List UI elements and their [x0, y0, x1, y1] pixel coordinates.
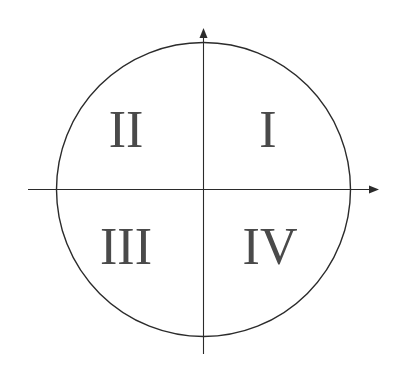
- quadrant-label-i: I: [259, 101, 276, 158]
- quadrant-diagram: I II III IV: [0, 0, 397, 373]
- quadrant-label-iii: III: [100, 218, 152, 275]
- x-axis-arrow-icon: [369, 186, 379, 194]
- quadrant-label-iv: IV: [243, 218, 298, 275]
- y-axis-arrow-icon: [200, 28, 208, 38]
- quadrant-label-ii: II: [109, 101, 144, 158]
